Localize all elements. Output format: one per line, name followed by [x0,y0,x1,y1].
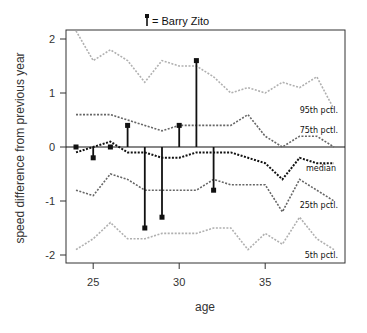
stem-point [108,145,113,150]
percentile-label: 25th pctl. [300,201,338,210]
legend-label: = Barry Zito [152,15,209,27]
series-5th-pctl [76,217,334,249]
x-axis: 253035 [87,263,271,288]
x-axis-title: age [195,300,215,314]
percentile-label: median [306,164,336,173]
legend: = Barry Zito [145,14,209,27]
stem-point [160,215,165,220]
x-tick-label: 25 [87,276,99,288]
x-tick-label: 35 [259,276,271,288]
y-axis-title: speed difference from previous year [13,52,27,243]
y-tick-label: 0 [49,141,55,153]
series-75th-pctl [76,115,334,147]
stem-point [142,226,147,231]
percentile-label: 5th pctl. [305,251,338,260]
y-tick-label: -1 [45,195,55,207]
percentile-series [76,31,334,250]
x-tick-label: 30 [173,276,185,288]
stem-marker-icon [145,14,149,26]
chart: = Barry Zito -2-1012 253035 speed differ… [0,0,367,333]
stem-point [194,58,199,63]
percentile-label: 75th pctl. [300,126,338,135]
series-95th-pctl [76,31,334,109]
stem-point [177,123,182,128]
y-tick-label: 1 [49,87,55,99]
stem-point [74,145,79,150]
y-tick-label: 2 [49,33,55,45]
y-axis: -2-1012 [45,33,66,261]
stem-point [125,123,130,128]
stem-point [211,188,216,193]
percentile-label: 95th pctl. [300,106,338,115]
stem-point [91,155,96,160]
series-25th-pctl [76,174,334,212]
highlight-stems [74,58,217,230]
y-tick-label: -2 [45,249,55,261]
